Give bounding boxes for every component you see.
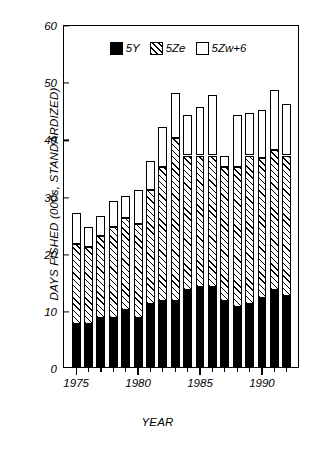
bar-segment-5y	[109, 318, 118, 367]
bar-segment-5zw-6	[196, 107, 205, 156]
y-tick-label: 40	[11, 134, 64, 146]
x-tick-mark-minor	[249, 367, 250, 372]
x-tick-mark-minor	[125, 367, 126, 372]
bar-segment-5ze	[196, 156, 205, 287]
y-tick-mark	[64, 254, 69, 255]
bar-segment-5ze	[109, 227, 118, 318]
bar-segment-5y	[282, 296, 291, 367]
x-tick-label: 1990	[249, 377, 275, 389]
bar-segment-5zw-6	[72, 213, 81, 244]
bar-segment-5ze	[84, 247, 93, 324]
bar-segment-5zw-6	[233, 115, 242, 166]
x-tick-mark-minor	[150, 367, 151, 372]
bar-segment-5zw-6	[84, 227, 93, 247]
bar-segment-5zw-6	[109, 201, 118, 227]
y-tick-mark	[64, 25, 69, 26]
bar-segment-5zw-6	[134, 190, 143, 224]
bar-segment-5y	[196, 287, 205, 367]
bar-segment-5y	[72, 324, 81, 367]
bar-segment-5ze	[245, 156, 254, 305]
bar-stack	[270, 90, 279, 367]
x-tick-mark-minor	[187, 367, 188, 372]
bar-stack	[84, 227, 93, 367]
x-tick-mark-minor	[274, 367, 275, 372]
x-tick-label: 1975	[63, 377, 89, 389]
bar-segment-5y	[270, 290, 279, 367]
y-tick-label: 30	[11, 192, 64, 204]
bar-segment-5zw-6	[245, 113, 254, 156]
x-tick-mark-minor	[175, 367, 176, 372]
bar-segment-5zw-6	[158, 127, 167, 167]
y-tick-label: 0	[11, 363, 64, 375]
bar-segment-5zw-6	[121, 196, 130, 219]
x-tick-label: 1985	[187, 377, 213, 389]
legend-item-5zw-6: 5Zw+6	[196, 42, 253, 55]
bar-segment-5y	[183, 290, 192, 367]
bar-segment-5y	[146, 304, 155, 367]
bar-stack	[220, 155, 229, 367]
chart-figure: DAYS FISHED (000s, STANDARDIZED) 0102030…	[0, 0, 315, 449]
bar-stack	[245, 113, 254, 367]
x-tick-mark-major	[261, 367, 262, 375]
bar-stack	[158, 127, 167, 367]
y-tick-label: 50	[11, 77, 64, 89]
bar-segment-5y	[134, 318, 143, 367]
bar-segment-5ze	[158, 167, 167, 301]
bar-stack	[109, 201, 118, 367]
bar-segment-5ze	[96, 236, 105, 319]
bar-stack	[196, 107, 205, 367]
x-tick-mark-major	[137, 367, 138, 375]
bar-segment-5ze	[72, 244, 81, 324]
bar-segment-5ze	[146, 190, 155, 304]
bar-segment-5zw-6	[171, 93, 180, 139]
bar-segment-5ze	[282, 156, 291, 296]
y-tick-mark	[64, 197, 69, 198]
bar-stack	[121, 196, 130, 368]
bar-segment-5zw-6	[96, 216, 105, 236]
bar-segment-5y	[84, 324, 93, 367]
bar-stack	[96, 216, 105, 367]
bar-segment-5zw-6	[220, 156, 229, 167]
bar-segment-5ze	[258, 158, 267, 298]
bar-segment-5y	[158, 301, 167, 367]
legend-swatch	[196, 42, 209, 55]
bar-segment-5ze	[270, 150, 279, 290]
bar-segment-5y	[208, 287, 217, 367]
x-tick-mark-minor	[286, 367, 287, 372]
x-tick-mark-minor	[237, 367, 238, 372]
x-tick-mark-minor	[212, 367, 213, 372]
chart-legend: 5Y5Ze5Zw+6	[63, 38, 299, 58]
bar-stack	[183, 115, 192, 367]
bar-segment-5zw-6	[146, 161, 155, 190]
x-tick-mark-minor	[113, 367, 114, 372]
x-tick-mark-minor	[88, 367, 89, 372]
bar-stack	[134, 190, 143, 367]
bar-stack	[171, 93, 180, 367]
x-tick-mark-major	[199, 367, 200, 375]
y-tick-mark	[64, 83, 69, 84]
bar-segment-5ze	[220, 167, 229, 301]
bar-segment-5y	[245, 304, 254, 367]
bar-segment-5zw-6	[208, 95, 217, 155]
bar-segment-5zw-6	[258, 110, 267, 159]
legend-label: 5Y	[126, 42, 140, 54]
bar-stack	[233, 115, 242, 367]
bar-segment-5zw-6	[183, 115, 192, 155]
x-tick-label: 1980	[125, 377, 151, 389]
bar-segment-5y	[233, 307, 242, 367]
bar-stack	[258, 110, 267, 367]
bar-stack	[146, 161, 155, 367]
bar-segment-5ze	[134, 224, 143, 318]
bar-segment-5ze	[121, 218, 130, 309]
bar-stack	[208, 95, 217, 367]
bar-segment-5y	[121, 310, 130, 367]
bar-stack	[282, 104, 291, 367]
bar-segment-5y	[171, 301, 180, 367]
bar-segment-5ze	[171, 138, 180, 301]
x-tick-mark-minor	[162, 367, 163, 372]
bar-segment-5y	[96, 318, 105, 367]
y-tick-mark	[64, 311, 69, 312]
legend-label: 5Ze	[166, 42, 186, 54]
bar-segment-5ze	[233, 167, 242, 307]
bar-segment-5y	[258, 298, 267, 367]
